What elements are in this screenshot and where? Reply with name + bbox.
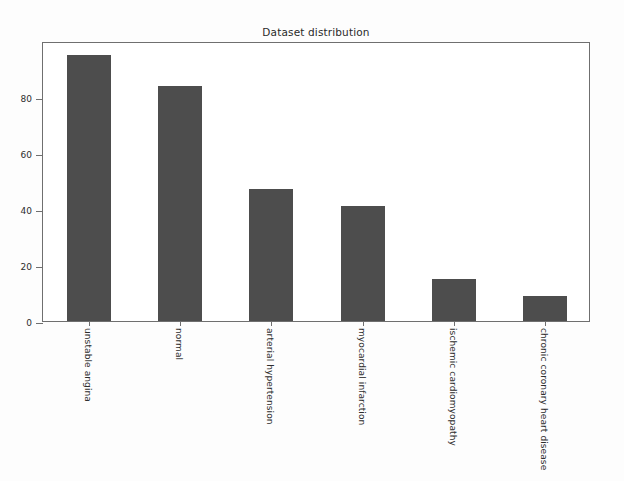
x-axis-tick bbox=[180, 321, 181, 326]
y-axis-tick-label: 40 bbox=[21, 206, 32, 216]
y-axis-tick: 20 bbox=[36, 267, 43, 268]
x-axis-tick-label: unstable angina bbox=[83, 328, 93, 402]
y-axis-tick-label: 20 bbox=[21, 262, 32, 272]
y-axis-tick: 60 bbox=[36, 155, 43, 156]
y-axis-tick-label: 60 bbox=[21, 150, 32, 160]
y-axis-tick: 80 bbox=[36, 99, 43, 100]
x-axis-tick-label: arterial hypertension bbox=[265, 328, 275, 425]
bar bbox=[432, 279, 476, 321]
x-axis-tick bbox=[363, 321, 364, 326]
x-axis-tick bbox=[89, 321, 90, 326]
chart-title: Dataset distribution bbox=[42, 26, 590, 38]
y-axis-tick-label: 0 bbox=[26, 318, 32, 328]
y-axis-tick: 0 bbox=[36, 323, 43, 324]
x-axis-tick-label: ischemic cardiomyopathy bbox=[448, 328, 458, 446]
x-axis-tick bbox=[454, 321, 455, 326]
x-axis-tick-label: chronic coronary heart disease bbox=[539, 328, 549, 470]
bars-layer bbox=[43, 43, 589, 321]
bar bbox=[341, 206, 385, 321]
plot-area: 020406080 unstable anginanormalarterial … bbox=[42, 42, 590, 322]
y-axis-tick: 40 bbox=[36, 211, 43, 212]
x-axis-tick bbox=[271, 321, 272, 326]
y-axis-tick-label: 80 bbox=[21, 94, 32, 104]
x-axis-tick-label: myocardial infarction bbox=[357, 328, 367, 425]
bar bbox=[67, 55, 111, 321]
bar bbox=[523, 296, 567, 321]
x-axis-tick bbox=[545, 321, 546, 326]
x-axis-tick-label: normal bbox=[174, 328, 184, 360]
figure-canvas: Dataset distribution 020406080 unstable … bbox=[0, 0, 624, 481]
bar bbox=[158, 86, 202, 321]
bar bbox=[249, 189, 293, 321]
